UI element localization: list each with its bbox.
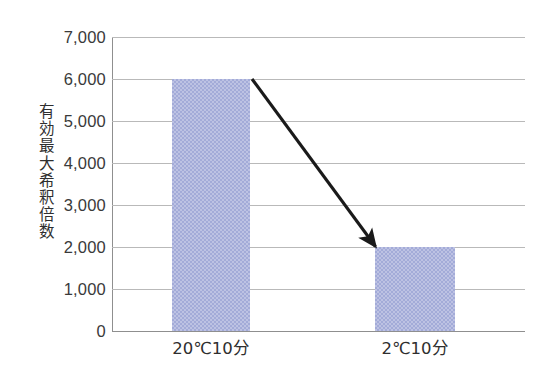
y-tick-label: 6,000 <box>34 71 106 88</box>
y-tick-label: 5,000 <box>34 113 106 130</box>
plot-area <box>112 37 525 331</box>
y-tick-label: 0 <box>34 323 106 340</box>
y-tick-label: 7,000 <box>34 29 106 46</box>
x-axis-tick-labels: 20℃10分2℃10分 <box>112 339 525 369</box>
x-axis-line <box>112 331 525 332</box>
bar <box>172 79 250 331</box>
x-tick-label: 20℃10分 <box>121 339 301 359</box>
y-tick-label: 3,000 <box>34 197 106 214</box>
y-tick-label: 2,000 <box>34 239 106 256</box>
x-tick-label: 2℃10分 <box>325 339 505 359</box>
y-tick-label: 4,000 <box>34 155 106 172</box>
y-axis-tick-labels: 7,0006,0005,0004,0003,0002,0001,0000 <box>32 0 106 388</box>
bar-chart: 有効最大希釈倍数 7,0006,0005,0004,0003,0002,0001… <box>0 0 549 388</box>
bar <box>375 247 455 331</box>
y-tick-label: 1,000 <box>34 281 106 298</box>
gridline <box>112 37 525 38</box>
